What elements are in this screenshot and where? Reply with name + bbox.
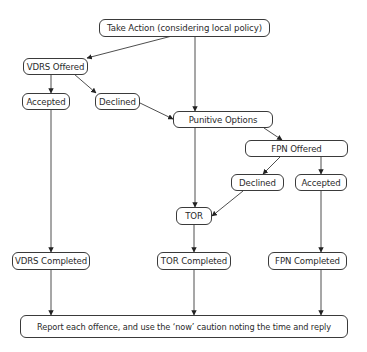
edge-declined-to-punitive xyxy=(140,103,173,119)
node-vdrs-declined: Declined xyxy=(95,93,140,110)
node-fpn-offered: FPN Offered xyxy=(245,140,348,157)
node-vdrs-completed: VDRS Completed xyxy=(12,252,90,270)
edge-fpn-offered-to-declined xyxy=(263,157,280,174)
node-vdrs-offered: VDRS Offered xyxy=(23,58,88,75)
node-punitive-options: Punitive Options xyxy=(173,111,273,128)
edge-vdrs-offered-to-declined xyxy=(74,74,96,93)
node-tor: TOR xyxy=(176,207,212,225)
edge-declined-to-tor xyxy=(212,191,243,216)
edge-punitive-to-fpn-offered xyxy=(264,128,282,140)
node-vdrs-accepted: Accepted xyxy=(22,93,70,110)
flowchart: Take Action (considering local policy) V… xyxy=(0,0,367,352)
node-fpn-declined: Declined xyxy=(231,174,284,191)
node-take-action: Take Action (considering local policy) xyxy=(99,19,270,37)
node-fpn-accepted: Accepted xyxy=(295,174,347,191)
node-tor-completed: TOR Completed xyxy=(157,252,231,270)
node-report: Report each offence, and use the ‘now’ c… xyxy=(20,315,348,338)
node-fpn-completed: FPN Completed xyxy=(268,252,347,270)
edge-take-action-to-vdrs-offered xyxy=(87,36,172,58)
